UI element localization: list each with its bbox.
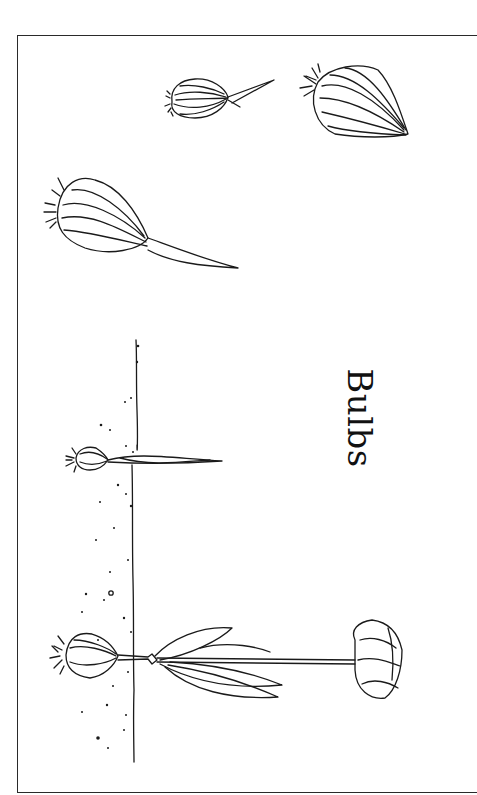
sprouting-bulb-long-shoot-icon <box>44 178 238 268</box>
page-title: Bulbs <box>340 368 380 467</box>
soil-line-icon <box>81 340 139 762</box>
sprouting-bulb-small-icon <box>165 79 274 118</box>
dormant-bulb-large-icon <box>300 64 408 137</box>
flowering-tulip-icon <box>50 620 402 698</box>
planted-bulb-seedling-icon <box>66 447 222 472</box>
